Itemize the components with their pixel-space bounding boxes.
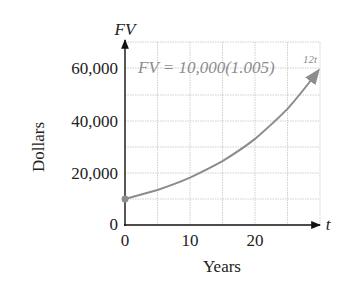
x-tick-20: 20 bbox=[247, 231, 264, 250]
x-axis-title: Years bbox=[203, 257, 241, 276]
x-tick-0: 0 bbox=[121, 231, 130, 250]
start-point bbox=[122, 196, 129, 203]
formula-main: FV = 10,000(1.005) bbox=[137, 58, 275, 77]
y-tick-40000: 40,000 bbox=[71, 112, 118, 131]
fv-curve bbox=[125, 71, 318, 199]
y-tick-0: 0 bbox=[110, 215, 119, 234]
y-variable-label: FV bbox=[114, 20, 138, 39]
formula-annotation: FV = 10,000(1.005) bbox=[137, 58, 275, 77]
y-tick-60000: 60,000 bbox=[71, 59, 118, 78]
y-axis-title: Dollars bbox=[29, 122, 48, 172]
chart: 60,000 40,000 20,000 0 0 10 20 FV t Year… bbox=[0, 0, 341, 297]
formula-exponent: 12t bbox=[303, 53, 318, 65]
x-variable-label: t bbox=[326, 215, 332, 234]
x-tick-10: 10 bbox=[182, 231, 199, 250]
y-tick-20000: 20,000 bbox=[71, 164, 118, 183]
